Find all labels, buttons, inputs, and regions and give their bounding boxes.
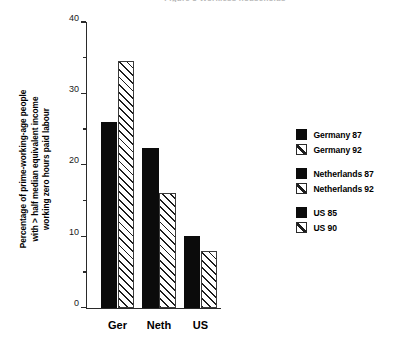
legend-item[interactable]: Netherlands 87 — [296, 167, 400, 180]
y-tick-minor — [83, 200, 87, 201]
bar — [101, 122, 118, 308]
legend-group: Netherlands 87Netherlands 92 — [296, 167, 400, 195]
legend-item-label: US 85 — [314, 208, 337, 218]
bar — [201, 251, 218, 308]
y-tick-label: 40 — [69, 13, 79, 22]
y-tick-major — [81, 307, 87, 308]
y-tick-minor — [83, 57, 87, 58]
legend-item[interactable]: Germany 87 — [296, 128, 400, 141]
y-tick-minor — [83, 271, 87, 272]
clipped-figure-title: Figure 3 Workless households — [95, 0, 355, 2]
y-axis-title: Percentage of prime-working-age people w… — [8, 24, 62, 314]
legend-item[interactable]: Germany 92 — [296, 143, 400, 156]
bar — [159, 193, 176, 307]
bar-chart-figure: Figure 3 Workless households Percentage … — [0, 0, 404, 346]
y-axis-title-text: Percentage of prime-working-age people w… — [18, 26, 53, 312]
legend-group: US 85US 90 — [296, 206, 400, 234]
y-tick-minor — [83, 128, 87, 129]
x-tick-label: Neth — [147, 319, 171, 331]
bar — [118, 61, 135, 307]
legend-swatch-hatched-icon — [296, 222, 307, 233]
y-axis-line — [86, 22, 87, 309]
y-tick-label: 0 — [74, 299, 79, 308]
legend-item-label: US 90 — [314, 223, 337, 233]
legend-swatch-solid-icon — [296, 207, 307, 218]
bar — [184, 236, 201, 307]
legend-item[interactable]: Netherlands 92 — [296, 182, 400, 195]
plot-area: 010203040 GerNethUS — [86, 22, 221, 309]
legend-item-label: Germany 87 — [314, 130, 362, 140]
x-tick-label: US — [193, 319, 208, 331]
y-tick-major — [81, 21, 87, 22]
legend-item-label: Netherlands 87 — [314, 169, 374, 179]
legend-swatch-hatched-icon — [296, 183, 307, 194]
y-tick-major — [81, 164, 87, 165]
legend-swatch-solid-icon — [296, 129, 307, 140]
x-axis-line — [86, 308, 221, 309]
legend-item-label: Germany 92 — [314, 145, 362, 155]
y-tick-major — [81, 236, 87, 237]
y-tick-label: 10 — [69, 227, 79, 236]
legend-swatch-solid-icon — [296, 168, 307, 179]
legend-item[interactable]: US 90 — [296, 221, 400, 234]
x-tick-label: Ger — [108, 319, 127, 331]
legend-group: Germany 87Germany 92 — [296, 128, 400, 156]
legend-item[interactable]: US 85 — [296, 206, 400, 219]
y-tick-label: 20 — [69, 156, 79, 165]
legend-swatch-hatched-icon — [296, 144, 307, 155]
y-tick-major — [81, 93, 87, 94]
legend-item-label: Netherlands 92 — [314, 184, 374, 194]
chart-legend: Germany 87Germany 92Netherlands 87Nether… — [296, 128, 400, 234]
y-tick-label: 30 — [69, 84, 79, 93]
bar — [142, 148, 159, 307]
